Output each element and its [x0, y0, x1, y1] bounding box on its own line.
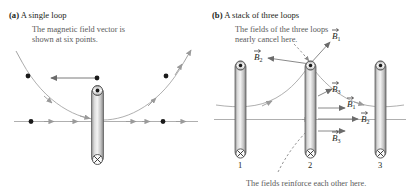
field-point — [95, 76, 100, 81]
vector-arrow-overbar — [332, 28, 339, 32]
vector-arrow-overbar — [361, 111, 368, 115]
field-line-arrow-2 — [80, 116, 90, 119]
field-line-arrow-4 — [175, 64, 182, 75]
vector-label-B1-lower: B1 — [347, 99, 356, 110]
field-point — [161, 119, 166, 124]
field-point — [26, 74, 31, 79]
vector-label-sub: 3 — [338, 89, 341, 95]
field-point — [29, 119, 34, 124]
vector-label-sub: 2 — [260, 57, 263, 63]
vector-label-sub: 3 — [338, 138, 341, 144]
current-out-of-page-dot — [239, 64, 243, 68]
current-out-of-page-dot — [309, 64, 313, 68]
vector-label-B3-upper: B3 — [332, 84, 341, 95]
magnetic-field-loops-figure: (a) A single loop The magnetic field vec… — [0, 0, 413, 196]
field-point — [164, 74, 169, 79]
vector-B2-upper — [268, 58, 310, 64]
vector-arrow-overbar — [254, 49, 261, 53]
vector-label-B1-upper: B1 — [332, 31, 341, 42]
vector-B1-upper — [310, 42, 330, 64]
vector-arrow-overbar — [332, 81, 339, 85]
field-line-tail-left — [16, 51, 22, 62]
vector-label-sub: 2 — [367, 119, 370, 125]
vector-B3-upper-diagonal — [318, 89, 332, 96]
callout-pointer-top — [294, 44, 309, 61]
vector-arrow-overbar — [347, 96, 354, 100]
field-line-tail-right — [184, 50, 191, 62]
vector-label-B2-lower: B2 — [361, 114, 370, 125]
field-line-arrow-1 — [44, 96, 52, 103]
loop-body — [375, 62, 386, 157]
field-line-left-curve — [216, 64, 310, 107]
field-line-right-curve — [310, 64, 404, 107]
field-line-arrow-3 — [148, 98, 156, 106]
loop-number-3: 3 — [378, 160, 382, 170]
current-out-of-page-dot — [379, 64, 383, 68]
loop-body — [235, 62, 246, 157]
panel-a-single-loop: (a) A single loop The magnetic field vec… — [0, 0, 206, 196]
vector-label-sub: 1 — [353, 104, 356, 110]
vector-label-B3-lower: B3 — [332, 133, 341, 144]
loop-body — [305, 62, 316, 157]
vector-label-B2-upper: B2 — [254, 52, 263, 63]
loop-number-1: 1 — [238, 160, 242, 170]
loop-number-2: 2 — [308, 160, 312, 170]
panel-b-stack-of-loops: (b) A stack of three loops The fields of… — [206, 0, 413, 196]
field-line-arrow-right — [354, 102, 364, 105]
vector-label-sub: 1 — [338, 36, 341, 42]
panel-a-diagram — [0, 0, 206, 196]
vector-arrow-overbar — [332, 130, 339, 134]
loop-body — [92, 87, 104, 163]
current-out-of-page-dot — [96, 89, 100, 93]
